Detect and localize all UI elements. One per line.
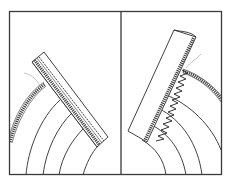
right-panel — [128, 30, 223, 175]
left-panel — [8, 52, 108, 175]
fabric-curve — [83, 146, 98, 175]
illustration-canvas — [0, 0, 228, 183]
fabric-curve — [43, 113, 72, 175]
thread — [186, 54, 201, 68]
sewing-illustration — [0, 0, 228, 183]
fabric-curve — [164, 94, 221, 150]
fabric-curve — [158, 108, 202, 175]
fabric-curve — [26, 100, 60, 175]
binding-strip — [128, 30, 196, 142]
fabric-curve — [150, 124, 186, 175]
thread — [24, 73, 40, 86]
fabric-curve — [59, 128, 84, 175]
lace-trim-curve — [10, 84, 45, 142]
fabric-curve — [142, 140, 166, 175]
